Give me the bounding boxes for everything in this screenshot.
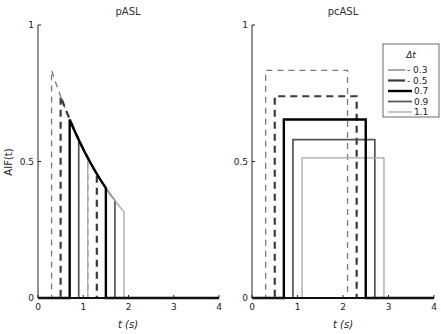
series-line-0-7: [252, 119, 434, 298]
series-line-1-1: [38, 158, 219, 298]
pasl-ylabel: AIF(t): [3, 148, 14, 175]
pasl-panel: pASL t (s) AIF(t) 0123400.51: [3, 6, 222, 330]
legend: Δt - 0.3- 0.50.70.91.1: [383, 44, 439, 117]
legend-label: 0.7: [414, 86, 428, 96]
series-line-0-5: [38, 96, 219, 298]
x-tick-label: 3: [386, 302, 392, 312]
series-line-0-7: [38, 119, 219, 298]
figure: pASL t (s) AIF(t) 0123400.51 pcASL t (s)…: [0, 0, 441, 334]
y-tick-label: 0: [242, 293, 248, 303]
x-tick-label: 2: [340, 302, 346, 312]
y-tick-label: 0: [28, 293, 34, 303]
pasl-xlabel: t (s): [118, 319, 138, 330]
series-line-0-3: [38, 70, 219, 298]
pcasl-xlabel: t (s): [333, 319, 353, 330]
y-tick-label: 1: [28, 20, 34, 30]
x-tick-label: 4: [216, 302, 222, 312]
y-tick-label: 1: [242, 20, 248, 30]
series-line-0-5: [252, 96, 434, 298]
pcasl-panel: pcASL t (s) 0123400.51 Δt - 0.3- 0.50.70…: [234, 6, 439, 330]
y-tick-label: 0.5: [234, 157, 248, 167]
legend-title: Δt: [405, 50, 416, 60]
series-line-0-9: [38, 140, 219, 298]
pcasl-title: pcASL: [328, 6, 359, 17]
legend-label: - 0.5: [407, 76, 427, 86]
x-tick-label: 0: [35, 302, 41, 312]
x-tick-label: 1: [295, 302, 301, 312]
legend-label: - 0.3: [407, 65, 427, 75]
x-tick-label: 1: [80, 302, 86, 312]
x-tick-label: 3: [171, 302, 177, 312]
x-tick-label: 0: [249, 302, 255, 312]
legend-label: 1.1: [414, 107, 428, 117]
series-line-0-9: [252, 140, 434, 298]
x-tick-label: 2: [126, 302, 132, 312]
x-tick-label: 4: [431, 302, 437, 312]
pasl-title: pASL: [115, 6, 141, 17]
series-line-1-1: [252, 158, 434, 298]
y-tick-label: 0.5: [20, 157, 34, 167]
legend-label: 0.9: [414, 97, 429, 107]
